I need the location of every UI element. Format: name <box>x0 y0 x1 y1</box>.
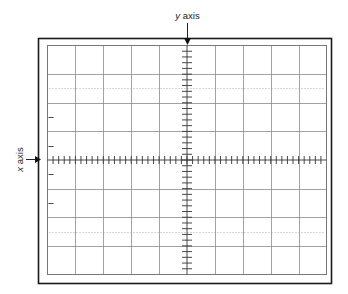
center-axes <box>48 46 327 275</box>
y-axis-label: y axis <box>174 10 200 21</box>
graticule-diagram: y axis x axis <box>0 0 348 294</box>
x-axis-label: x axis <box>14 147 25 173</box>
y-axis-arrow <box>184 23 191 45</box>
